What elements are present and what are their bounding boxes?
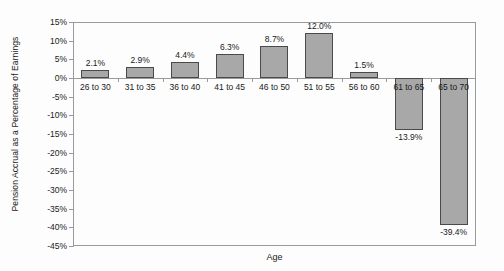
y-axis-tick-labels: 15%10%5%0%-5%-10%-15%-20%-25%-30%-35%-40… [22,0,67,271]
bar-value-label: 2.9% [130,55,149,65]
x-axis-tick-mark [118,78,119,82]
x-axis-tick-mark [207,78,208,82]
x-axis-category-label: 61 to 65 [393,82,424,92]
x-axis-title: Age [73,252,476,262]
bar-group: 8.7%46 to 50 [252,22,297,246]
y-axis-tick-label: 10% [27,36,67,46]
bar-value-label: -13.9% [395,132,422,142]
bar-group: -39.4%65 to 70 [431,22,476,246]
bar-group: 2.1%26 to 30 [73,22,118,246]
bars-layer: 2.1%26 to 302.9%31 to 354.4%36 to 406.3%… [73,22,476,246]
y-axis-tick-label: -20% [27,148,67,158]
x-axis-category-label: 41 to 45 [214,82,245,92]
bar-group: 1.5%56 to 60 [342,22,387,246]
chart-screenshot: Pension Accrual as a Percentage of Earni… [0,0,504,271]
y-axis-tick-label: -35% [27,204,67,214]
bar-value-label: 1.5% [354,60,373,70]
y-axis-tick-label: -40% [27,222,67,232]
bar[interactable] [305,33,333,78]
x-axis-category-label: 26 to 30 [80,82,111,92]
x-axis-tick-mark [297,78,298,82]
y-axis-tick-mark [69,246,74,247]
bar[interactable] [81,70,109,78]
bar[interactable] [216,54,244,78]
bar-value-label: 8.7% [265,34,284,44]
y-axis-tick-label: 0% [27,73,67,83]
y-axis-tick-label: -5% [27,92,67,102]
bar-group: -13.9%61 to 65 [386,22,431,246]
x-axis-category-label: 51 to 55 [304,82,335,92]
bar-group: 2.9%31 to 35 [118,22,163,246]
bar-group: 6.3%41 to 45 [207,22,252,246]
y-axis-tick-label: 5% [27,54,67,64]
bar-value-label: 2.1% [86,58,105,68]
x-axis-tick-mark [431,78,432,82]
y-axis-tick-label: 15% [27,17,67,27]
x-axis-category-label: 31 to 35 [125,82,156,92]
bar-value-label: 12.0% [307,21,331,31]
bar-value-label: 4.4% [175,50,194,60]
bar[interactable] [126,67,154,78]
y-axis-tick-label: -25% [27,166,67,176]
x-axis-category-label: 65 to 70 [438,82,469,92]
bar[interactable] [350,72,378,78]
bar-group: 4.4%36 to 40 [163,22,208,246]
x-axis-tick-mark [73,78,74,82]
y-axis-tick-label: -30% [27,185,67,195]
bar-value-label: -39.4% [440,227,467,237]
x-axis-tick-mark [163,78,164,82]
x-axis-category-label: 46 to 50 [259,82,290,92]
x-axis-category-label: 56 to 60 [349,82,380,92]
x-axis-category-label: 36 to 40 [170,82,201,92]
x-axis-tick-mark [342,78,343,82]
y-axis-tick-label: -45% [27,241,67,251]
bar-group: 12.0%51 to 55 [297,22,342,246]
x-axis-tick-mark [386,78,387,82]
bar[interactable] [260,46,288,78]
y-axis-tick-label: -15% [27,129,67,139]
bar-value-label: 6.3% [220,42,239,52]
bar[interactable] [171,62,199,78]
x-axis-tick-mark [252,78,253,82]
bar[interactable] [440,78,468,225]
y-axis-tick-label: -10% [27,110,67,120]
